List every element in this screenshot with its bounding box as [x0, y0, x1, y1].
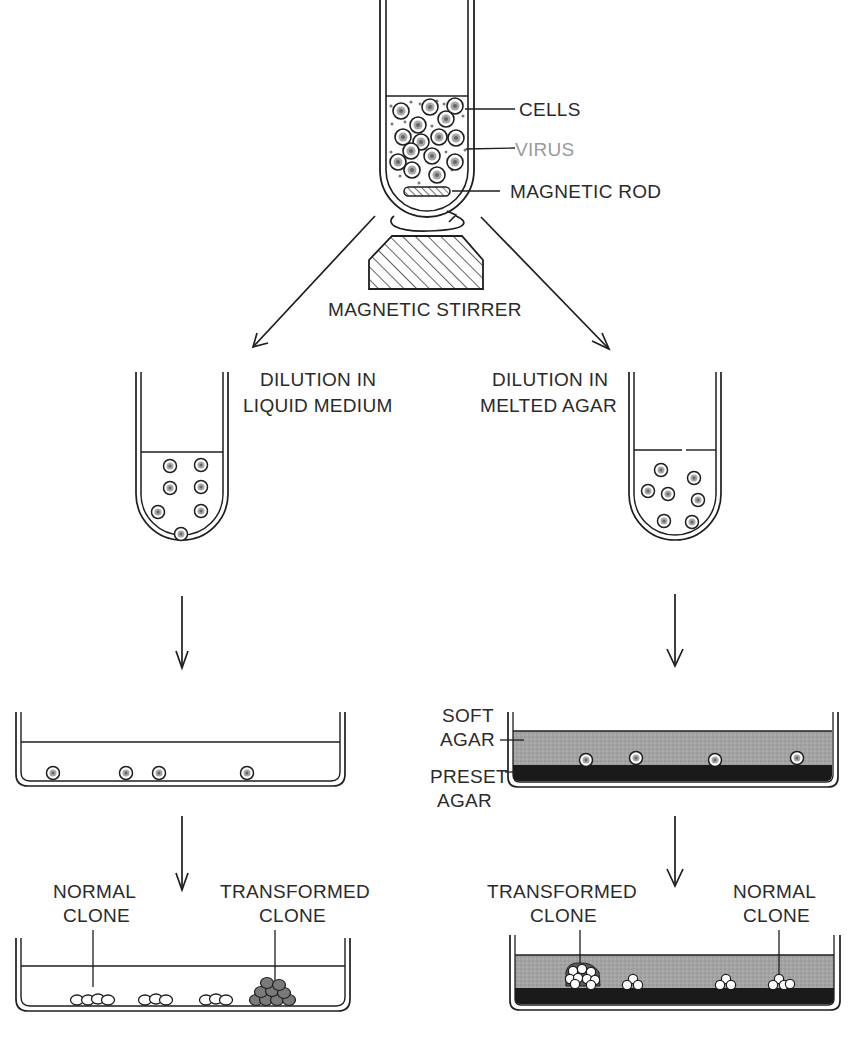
melted-agar-label-line1: DILUTION IN [492, 369, 608, 390]
right-agar-dish-2 [510, 930, 840, 1010]
left-dilution-tube [136, 372, 228, 541]
left-transformed-clone-label-line2: CLONE [259, 905, 326, 926]
left-culture-dish-1 [16, 712, 345, 786]
arrow-down-icon [667, 594, 683, 666]
left-culture-dish-2 [16, 930, 350, 1011]
arrow-to-liquid-medium [253, 216, 375, 347]
normal-clone [139, 994, 173, 1005]
arrow-down-icon [176, 596, 188, 668]
left-transformed-clone-label-line1: TRANSFORMED [220, 881, 370, 902]
soft-agar-transformation-assay-diagram: CELLS VIRUS MAGNETIC ROD MAGNETIC STIRRE… [0, 0, 848, 1044]
left-normal-clone-label-line1: NORMAL [53, 881, 136, 902]
virus-label: VIRUS [515, 139, 575, 160]
arrow-down-icon [176, 816, 188, 890]
right-transformed-clone-label-line1: TRANSFORMED [487, 881, 637, 902]
cells-label: CELLS [519, 99, 581, 120]
normal-clone [200, 994, 233, 1005]
soft-agar-label-line2: AGAR [440, 729, 495, 750]
right-dilution-tube [629, 372, 721, 540]
preset-agar-label-line1: PRESET [430, 766, 508, 787]
right-transformed-clone-label-line2: CLONE [530, 905, 597, 926]
soft-agar-label-line1: SOFT [442, 705, 494, 726]
transformed-clone [250, 978, 296, 1006]
rotation-arrow-icon [391, 211, 464, 231]
arrow-down-icon [667, 816, 683, 886]
preset-agar-label-line2: AGAR [437, 790, 492, 811]
normal-clone [71, 994, 115, 1005]
left-normal-clone-label-line2: CLONE [63, 905, 130, 926]
liquid-medium-label-line1: DILUTION IN [260, 369, 376, 390]
melted-agar-label-line2: MELTED AGAR [480, 395, 617, 416]
arrow-to-melted-agar [481, 217, 609, 349]
transformed-clone [565, 963, 600, 990]
magnetic-rod [404, 187, 450, 196]
cells-in-tube [390, 98, 464, 183]
liquid-medium-label-line2: LIQUID MEDIUM [243, 395, 393, 416]
top-test-tube [380, 0, 474, 217]
magnetic-rod-label: MAGNETIC ROD [510, 181, 661, 202]
right-normal-clone-label-line2: CLONE [743, 905, 810, 926]
right-agar-dish-1 [508, 712, 838, 787]
right-normal-clone-label-line1: NORMAL [733, 881, 816, 902]
magnetic-stirrer-label: MAGNETIC STIRRER [328, 299, 522, 320]
magnetic-stirrer [369, 236, 483, 289]
